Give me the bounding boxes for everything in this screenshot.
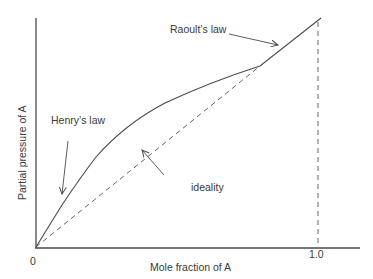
raoult-arrow (229, 34, 278, 45)
ideality-label: ideality (191, 181, 224, 193)
raoult-label: Raoult’s law (170, 23, 227, 35)
partial-pressure-diagram: Henry’s law Raoult’s law ideality 0 1.0 … (0, 0, 373, 279)
x-tick-zero: 0 (30, 255, 36, 267)
henry-arrow (62, 141, 68, 194)
x-tick-one: 1.0 (309, 248, 324, 260)
y-axis-label: Partial pressure of A (16, 105, 28, 200)
henry-label: Henry’s law (51, 114, 105, 126)
x-axis-label: Mole fraction of A (150, 261, 231, 273)
ideality-arrow (142, 150, 164, 175)
